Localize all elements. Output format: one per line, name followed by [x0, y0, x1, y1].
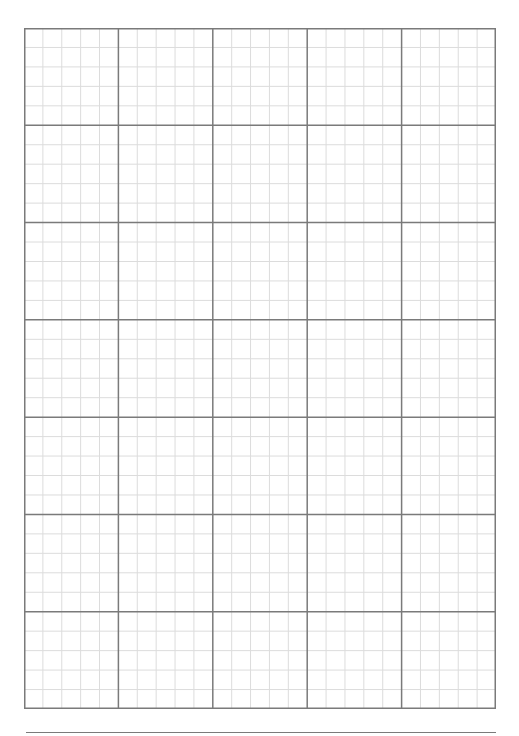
graph-paper-grid [24, 28, 496, 709]
major-grid-lines [24, 28, 496, 709]
minor-grid-lines [24, 28, 496, 709]
grid-lines [24, 28, 496, 709]
footer-rule [26, 732, 496, 733]
